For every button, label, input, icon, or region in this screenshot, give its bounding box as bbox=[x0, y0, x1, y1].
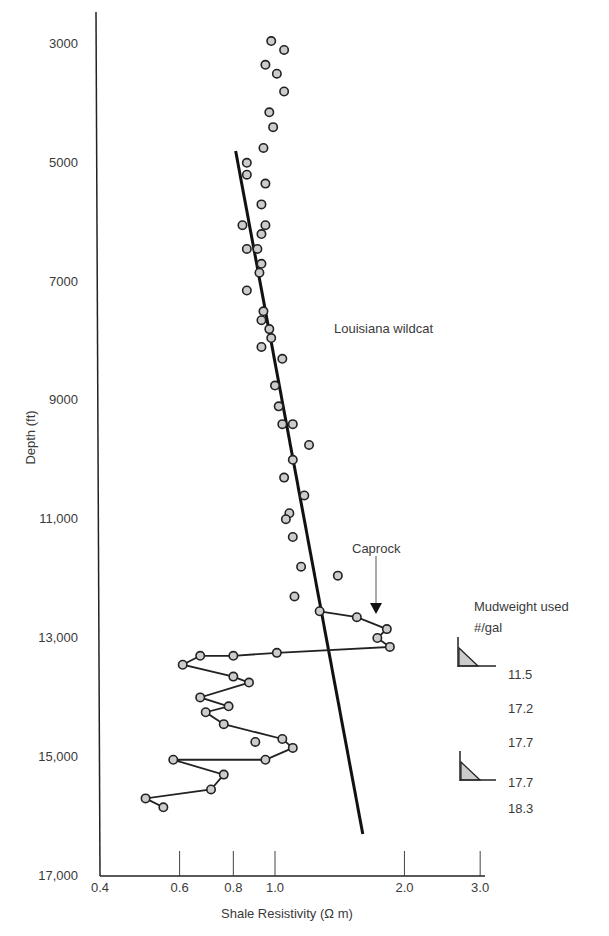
data-point bbox=[315, 607, 323, 615]
data-point bbox=[261, 756, 269, 764]
casing-marker-2 bbox=[460, 751, 496, 781]
y-tick-label: 5000 bbox=[18, 155, 78, 170]
data-point bbox=[253, 245, 261, 253]
data-point bbox=[259, 307, 267, 315]
y-tick-label: 15,000 bbox=[18, 749, 78, 764]
data-point bbox=[300, 491, 308, 499]
data-point bbox=[353, 613, 361, 621]
data-point bbox=[280, 87, 288, 95]
data-point bbox=[202, 708, 210, 716]
data-point bbox=[257, 200, 265, 208]
data-point bbox=[196, 693, 204, 701]
data-point bbox=[289, 456, 297, 464]
x-tick-label: 0.4 bbox=[91, 880, 109, 895]
data-point bbox=[229, 672, 237, 680]
y-tick-label: 7000 bbox=[18, 274, 78, 289]
data-point bbox=[243, 159, 251, 167]
data-point bbox=[267, 334, 275, 342]
data-point bbox=[273, 70, 281, 78]
data-point bbox=[290, 592, 298, 600]
mudweight-header: Mudweight used bbox=[474, 599, 569, 614]
data-point bbox=[267, 37, 275, 45]
casing-marker-1 bbox=[458, 637, 496, 667]
data-point bbox=[265, 108, 273, 116]
data-point bbox=[220, 770, 228, 778]
mudweight-value: 11.5 bbox=[508, 667, 532, 682]
data-point bbox=[273, 649, 281, 657]
data-point bbox=[278, 735, 286, 743]
data-point bbox=[243, 245, 251, 253]
y-tick-label: 13,000 bbox=[18, 630, 78, 645]
data-point bbox=[257, 230, 265, 238]
y-axis bbox=[96, 12, 100, 876]
y-tick-label: 17,000 bbox=[18, 868, 78, 883]
data-point bbox=[274, 402, 282, 410]
chart-canvas bbox=[0, 0, 609, 936]
x-axis-label: Shale Resistivity (Ω m) bbox=[221, 906, 353, 921]
data-point bbox=[271, 381, 279, 389]
mudweight-value: 17.2 bbox=[508, 701, 533, 716]
data-point bbox=[229, 652, 237, 660]
data-point bbox=[141, 794, 149, 802]
data-point bbox=[245, 678, 253, 686]
mudweight-unit: #/gal bbox=[474, 620, 502, 635]
mudweight-value: 17.7 bbox=[508, 735, 533, 750]
data-points bbox=[141, 37, 394, 812]
data-point bbox=[305, 441, 313, 449]
data-point bbox=[257, 343, 265, 351]
data-point bbox=[207, 785, 215, 793]
data-point bbox=[261, 179, 269, 187]
data-point bbox=[282, 515, 290, 523]
data-point bbox=[257, 316, 265, 324]
data-point bbox=[159, 803, 167, 811]
data-point bbox=[383, 625, 391, 633]
data-point bbox=[196, 652, 204, 660]
data-point bbox=[169, 756, 177, 764]
data-point bbox=[220, 720, 228, 728]
x-tick-label: 1.0 bbox=[266, 880, 284, 895]
data-point bbox=[289, 420, 297, 428]
y-tick-label: 3000 bbox=[18, 36, 78, 51]
data-point bbox=[243, 286, 251, 294]
data-point bbox=[251, 738, 259, 746]
data-point bbox=[334, 571, 342, 579]
data-point bbox=[280, 46, 288, 54]
data-point bbox=[278, 355, 286, 363]
x-tick-label: 0.8 bbox=[224, 880, 242, 895]
data-point bbox=[259, 144, 267, 152]
data-point bbox=[269, 123, 277, 131]
x-tick-marks bbox=[180, 851, 481, 876]
data-point bbox=[261, 221, 269, 229]
data-point bbox=[243, 170, 251, 178]
mudweight-value: 17.7 bbox=[508, 775, 533, 790]
data-point bbox=[280, 473, 288, 481]
x-tick-label: 3.0 bbox=[471, 880, 489, 895]
data-point bbox=[238, 221, 246, 229]
mudweight-value: 18.3 bbox=[508, 801, 533, 816]
data-point bbox=[278, 420, 286, 428]
data-point bbox=[178, 661, 186, 669]
x-tick-label: 2.0 bbox=[395, 880, 413, 895]
data-point bbox=[224, 702, 232, 710]
x-tick-label: 0.6 bbox=[171, 880, 189, 895]
data-point bbox=[297, 563, 305, 571]
data-point bbox=[261, 61, 269, 69]
data-point bbox=[265, 325, 273, 333]
annotation-louisiana-wildcat: Louisiana wildcat bbox=[334, 321, 433, 336]
data-point bbox=[255, 268, 263, 276]
y-tick-label: 11,000 bbox=[18, 511, 78, 526]
y-axis-label: Depth (ft) bbox=[23, 398, 38, 478]
data-point bbox=[373, 634, 381, 642]
data-point bbox=[257, 260, 265, 268]
caprock-arrow bbox=[370, 556, 382, 614]
data-point bbox=[289, 533, 297, 541]
annotation-caprock: Caprock bbox=[352, 541, 400, 556]
data-point bbox=[386, 643, 394, 651]
data-point bbox=[289, 744, 297, 752]
